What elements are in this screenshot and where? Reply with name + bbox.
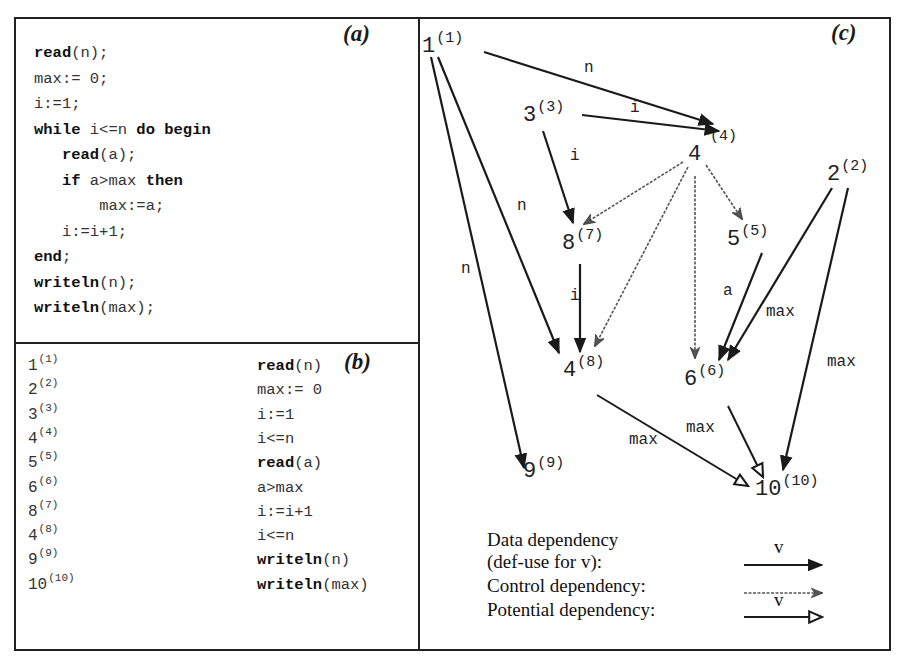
graph-node: 1(1): [422, 30, 463, 59]
node-statement-number: 10: [755, 477, 781, 502]
graph-node: 4(8): [563, 354, 604, 383]
data-dependency-edge: max: [783, 188, 856, 470]
legend-arrow-label: v: [774, 589, 784, 610]
edge-label: i: [630, 99, 640, 117]
node-statement-number: 3: [523, 103, 536, 128]
node-statement-number: 1: [422, 34, 435, 59]
graph-node: 4(4): [688, 128, 737, 167]
edge-label: n: [584, 59, 594, 77]
node-occurrence: (7): [576, 227, 603, 244]
graph-legend: Data dependency(def-use for v):vControl …: [487, 529, 822, 620]
graph-node: 9(9): [523, 455, 564, 484]
node-occurrence: (9): [537, 455, 564, 472]
graph-edges: niinniamaxmaxmaxmax: [431, 52, 856, 486]
dependence-graph-svg: niinniamaxmaxmaxmax 1(1)3(3)4(4)2(2)8(7)…: [0, 0, 899, 661]
graph-node: 6(6): [684, 363, 725, 392]
node-occurrence: (10): [782, 473, 818, 490]
graph-node: 3(3): [523, 99, 564, 128]
potential-dependency-edge: max: [686, 406, 763, 477]
legend-item-control: Control dependency:: [487, 575, 822, 596]
node-occurrence: (5): [741, 223, 768, 240]
data-dependency-edge: max: [728, 188, 832, 360]
node-statement-number: 5: [727, 227, 740, 252]
node-statement-number: 2: [827, 162, 840, 187]
node-occurrence: (3): [537, 99, 564, 116]
data-dependency-edge: a: [719, 253, 762, 360]
legend-text: (def-use for v):: [487, 551, 602, 573]
data-dependency-edge: n: [431, 57, 524, 468]
node-statement-number: 4: [563, 358, 576, 383]
edge-label: i: [570, 147, 580, 165]
edge-label: max: [686, 419, 715, 437]
node-statement-number: 4: [688, 142, 701, 167]
legend-item-data: Data dependency(def-use for v):v: [487, 529, 822, 573]
data-dependency-edge: i: [570, 264, 580, 352]
graph-node: 10(10): [755, 473, 818, 502]
node-occurrence: (4): [710, 128, 737, 145]
legend-text: Potential dependency:: [487, 599, 655, 620]
potential-dependency-edge: max: [597, 395, 748, 486]
control-dependency-edge: [706, 165, 742, 219]
node-statement-number: 6: [684, 367, 697, 392]
node-occurrence: (1): [436, 30, 463, 47]
edge-label: max: [827, 353, 856, 371]
node-statement-number: 8: [562, 231, 575, 256]
data-dependency-edge: i: [543, 131, 580, 223]
node-occurrence: (8): [577, 354, 604, 371]
graph-node: 5(5): [727, 223, 768, 252]
edge-label: n: [517, 197, 527, 215]
legend-text: Control dependency:: [487, 575, 646, 596]
node-statement-number: 9: [523, 459, 536, 484]
control-dependency-edge: [595, 167, 688, 346]
data-dependency-edge: n: [484, 52, 713, 124]
node-occurrence: (2): [841, 158, 868, 175]
legend-arrow-label: v: [774, 536, 784, 557]
node-occurrence: (6): [698, 363, 725, 380]
edge-label: max: [766, 303, 795, 321]
edge-label: max: [629, 431, 658, 449]
legend-text: Data dependency: [487, 529, 619, 550]
graph-node: 2(2): [827, 158, 868, 187]
edge-label: i: [570, 287, 580, 305]
graph-node: 8(7): [562, 227, 603, 256]
edge-label: n: [461, 260, 471, 278]
control-dependency-edge: [584, 162, 683, 224]
edge-label: a: [723, 282, 733, 300]
